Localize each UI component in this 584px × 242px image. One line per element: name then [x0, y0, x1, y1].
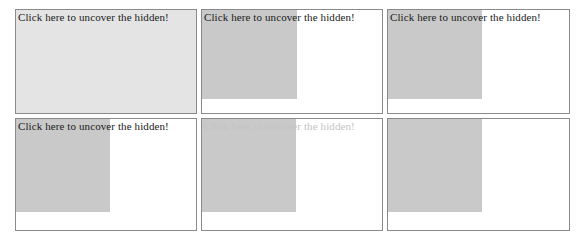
panel-label-2: Click here to uncover the hidden!: [204, 10, 355, 24]
panel-label-4: Click here to uncover the hidden!: [18, 119, 169, 133]
cover-overlay-1[interactable]: [16, 10, 196, 113]
panel-label-5: Click here to uncover the hidden!: [204, 119, 355, 133]
uncover-panel-5[interactable]: Click here to uncover the hidden!: [201, 118, 383, 231]
uncover-panel-1[interactable]: Click here to uncover the hidden!: [15, 9, 197, 114]
panel-label-1: Click here to uncover the hidden!: [18, 10, 169, 24]
panel-grid: Click here to uncover the hidden! Click …: [0, 0, 584, 242]
panel-label-6: Click here to uncover the hidden!: [390, 119, 541, 133]
uncover-panel-3[interactable]: Click here to uncover the hidden!: [387, 9, 570, 114]
uncover-panel-2[interactable]: Click here to uncover the hidden!: [201, 9, 383, 114]
uncover-panel-6[interactable]: Click here to uncover the hidden!: [387, 118, 570, 231]
uncover-panel-4[interactable]: Click here to uncover the hidden!: [15, 118, 197, 231]
panel-label-3: Click here to uncover the hidden!: [390, 10, 541, 24]
